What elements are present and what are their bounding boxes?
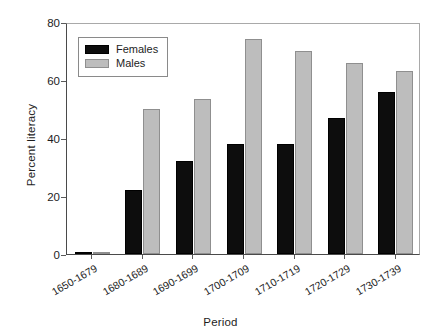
bar-females-1650-1679 xyxy=(75,252,92,254)
x-axis-tick-label: 1710-1719 xyxy=(245,262,301,301)
x-axis-tick-label: 1720-1729 xyxy=(296,262,352,301)
y-axis-tick-label: 80 xyxy=(30,17,60,29)
chart-legend: Females Males xyxy=(78,37,168,77)
bar-group xyxy=(378,24,413,254)
x-axis-tick-mark xyxy=(192,255,193,259)
x-axis-tick-mark xyxy=(294,255,295,259)
x-axis-tick-label: 1680-1689 xyxy=(94,262,150,301)
x-axis-tick-mark xyxy=(91,255,92,259)
bar-males-1700-1709 xyxy=(245,39,262,254)
bar-males-1680-1689 xyxy=(143,109,160,254)
x-axis-tick-mark xyxy=(344,255,345,259)
legend-label-females: Females xyxy=(116,44,158,55)
x-axis-tick-label: 1690-1699 xyxy=(144,262,200,301)
bar-group xyxy=(328,24,363,254)
bar-males-1710-1719 xyxy=(295,51,312,254)
bar-males-1690-1699 xyxy=(194,99,211,254)
x-axis-tick-label: 1730-1739 xyxy=(346,262,402,301)
legend-item-males: Males xyxy=(85,57,158,70)
legend-item-females: Females xyxy=(85,43,158,56)
bar-females-1730-1739 xyxy=(378,92,395,254)
x-axis-tick-mark xyxy=(142,255,143,259)
bar-females-1680-1689 xyxy=(125,190,142,254)
bar-females-1690-1699 xyxy=(176,161,193,254)
y-axis-tick-label: 20 xyxy=(30,191,60,203)
y-axis-tick-label: 60 xyxy=(30,75,60,87)
y-axis-tick-label: 40 xyxy=(30,133,60,145)
bar-females-1700-1709 xyxy=(227,144,244,254)
y-axis-tick-mark xyxy=(61,255,66,256)
plot-area: Females Males xyxy=(66,23,420,255)
x-axis-title: Period xyxy=(0,316,441,328)
x-axis-tick-label: 1650-1679 xyxy=(43,262,99,301)
bar-males-1730-1739 xyxy=(396,71,413,254)
bar-males-1650-1679 xyxy=(93,252,110,254)
x-axis-tick-mark xyxy=(395,255,396,259)
bar-group xyxy=(176,24,211,254)
bar-males-1720-1729 xyxy=(346,63,363,254)
legend-label-males: Males xyxy=(116,58,145,69)
bar-females-1720-1729 xyxy=(328,118,345,254)
bar-group xyxy=(227,24,262,254)
y-axis-tick-label: 0 xyxy=(30,249,60,261)
bar-group xyxy=(277,24,312,254)
x-axis-tick-mark xyxy=(243,255,244,259)
bar-chart-figure: Percent literacy 020406080 Females Males… xyxy=(0,0,441,333)
black-swatch-icon xyxy=(85,45,109,54)
bar-females-1710-1719 xyxy=(277,144,294,254)
gray-swatch-icon xyxy=(85,59,109,68)
x-axis-tick-label: 1700-1709 xyxy=(195,262,251,301)
